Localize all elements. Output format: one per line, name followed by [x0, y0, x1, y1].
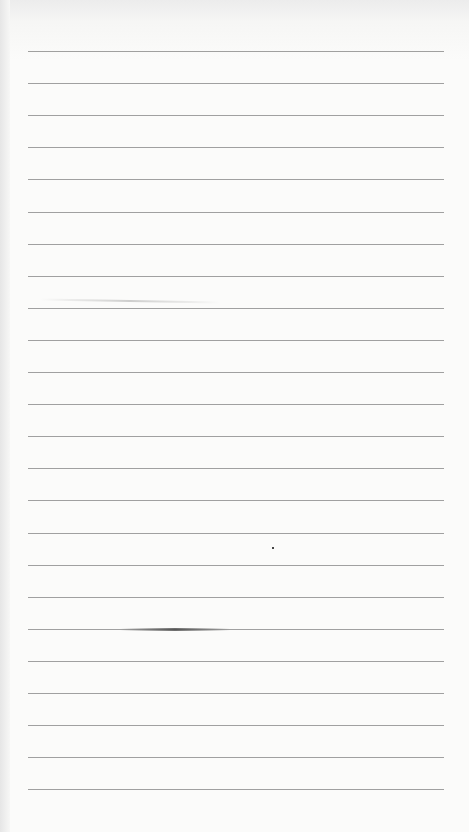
- lined-paper-sheet: [0, 0, 469, 832]
- ruled-line: [28, 212, 444, 213]
- ruled-line: [28, 533, 444, 534]
- ruled-line: [28, 276, 444, 277]
- ruled-line: [28, 565, 444, 566]
- ruled-line: [28, 244, 444, 245]
- ruled-line: [28, 789, 444, 790]
- ink-dot: [272, 547, 274, 549]
- ruled-line: [28, 308, 444, 309]
- ruled-line: [28, 693, 444, 694]
- ruled-line: [28, 661, 444, 662]
- ruled-line: [28, 468, 444, 469]
- ruled-line: [28, 436, 444, 437]
- pencil-smudge: [40, 299, 220, 304]
- ruled-line: [28, 757, 444, 758]
- ruled-line: [28, 179, 444, 180]
- ruled-line: [28, 725, 444, 726]
- paper-edge-shadow: [0, 0, 10, 832]
- ruled-line: [28, 83, 444, 84]
- ruled-line: [28, 372, 444, 373]
- ruled-line: [28, 597, 444, 598]
- pencil-mark: [120, 628, 230, 631]
- ruled-line: [28, 115, 444, 116]
- ruled-line: [28, 404, 444, 405]
- ruled-line: [28, 500, 444, 501]
- ruled-line: [28, 629, 444, 630]
- ruled-line: [28, 340, 444, 341]
- ruled-line: [28, 147, 444, 148]
- ruled-line: [28, 51, 444, 52]
